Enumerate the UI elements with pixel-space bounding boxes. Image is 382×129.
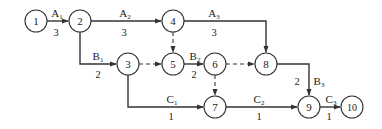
arrow-b3 [277,64,309,95]
duration-c1: 1 [168,111,173,122]
node-9: 9 [298,96,320,118]
duration-a2: 3 [121,27,126,38]
activity-arrows [47,21,340,107]
node-4-label: 4 [170,15,176,27]
label-c1: C1 [167,93,178,107]
node-2: 2 [69,10,91,32]
node-1-label: 1 [33,15,39,27]
duration-b1: 2 [95,69,100,80]
label-c3: C3 [326,93,337,107]
node-2-label: 2 [77,15,83,27]
node-5: 5 [162,53,184,75]
label-b1: B1 [93,50,104,64]
node-7: 7 [204,96,226,118]
node-6-label: 6 [212,58,218,70]
node-4: 4 [162,10,184,32]
node-1: 1 [25,10,47,32]
duration-c2: 1 [256,111,261,122]
node-7-label: 7 [212,101,218,113]
node-10-label: 10 [347,102,357,113]
node-3: 3 [117,53,139,75]
duration-a1: 3 [53,27,58,38]
label-a2: A2 [119,7,131,21]
duration-a3: 3 [211,27,216,38]
duration-c3: 1 [326,111,331,122]
label-b3: B3 [314,75,325,89]
label-c2: C2 [254,93,265,107]
node-5-label: 5 [170,58,176,70]
duration-b3: 2 [294,76,299,87]
node-3-label: 3 [125,58,131,70]
node-6: 6 [204,53,226,75]
node-10: 10 [341,96,363,118]
label-a1: A1 [51,7,63,21]
label-a3: A3 [208,7,220,21]
arrow-a3 [184,21,266,52]
node-8-label: 8 [263,58,269,70]
node-8: 8 [255,53,277,75]
network-diagram: 1 2 4 3 5 6 8 7 [0,0,382,129]
duration-b2: 2 [191,69,196,80]
node-9-label: 9 [306,101,312,113]
label-b2: B2 [190,50,201,64]
